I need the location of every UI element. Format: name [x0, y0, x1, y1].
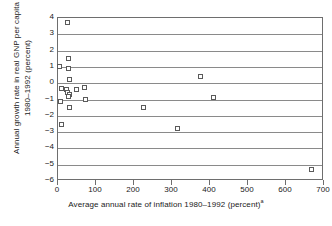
y-axis-tick-label: −3 — [34, 127, 54, 135]
y-axis-tick-label: −6 — [34, 176, 54, 184]
x-axis-tick-label: 500 — [232, 186, 262, 194]
data-point-marker — [211, 95, 216, 100]
x-axis-title-text: Average annual rate of inflation 1980–19… — [68, 200, 260, 209]
y-axis-tick-label: 1 — [34, 62, 54, 70]
x-axis-tick-label: 700 — [308, 186, 332, 194]
x-axis-tick-label: 200 — [118, 186, 148, 194]
data-point-marker — [67, 105, 72, 110]
gridline — [58, 51, 322, 52]
y-axis-tick-label: 3 — [34, 29, 54, 37]
data-point-marker — [59, 122, 64, 127]
data-point-marker — [59, 86, 64, 91]
x-axis-tick-label: 600 — [270, 186, 300, 194]
data-point-marker — [198, 74, 203, 79]
x-axis-title-footnote: a — [261, 198, 264, 204]
data-point-marker — [66, 66, 71, 71]
data-point-marker — [67, 77, 72, 82]
data-point-marker — [57, 64, 62, 69]
y-axis-tick-label: 2 — [34, 46, 54, 54]
gridline — [58, 34, 322, 35]
data-point-marker — [309, 167, 314, 172]
data-point-marker — [66, 56, 71, 61]
gridline — [58, 165, 322, 166]
data-point-marker — [82, 85, 87, 90]
x-axis-tick-label: 0 — [42, 186, 72, 194]
data-point-marker — [66, 94, 71, 99]
x-axis-title: Average annual rate of inflation 1980–19… — [0, 200, 332, 209]
gridline — [58, 148, 322, 149]
y-axis-tick-label: 4 — [34, 13, 54, 21]
plot-area — [57, 17, 323, 180]
y-axis-tick-label: −1 — [34, 95, 54, 103]
x-axis-tick-label: 100 — [80, 186, 110, 194]
x-axis-tick-label: 400 — [194, 186, 224, 194]
data-point-marker — [58, 99, 63, 104]
gridline — [58, 83, 322, 84]
data-point-marker — [65, 20, 70, 25]
gridline — [58, 100, 322, 101]
y-axis-tick-label: −2 — [34, 111, 54, 119]
scatter-chart-figure: Annual growth rate in real GNP per capit… — [0, 0, 332, 226]
data-point-marker — [74, 87, 79, 92]
gridline — [58, 67, 322, 68]
y-axis-tick-label: 0 — [34, 78, 54, 86]
data-point-marker — [141, 105, 146, 110]
y-axis-tick-label: −4 — [34, 143, 54, 151]
gridline — [58, 132, 322, 133]
gridline — [58, 116, 322, 117]
x-axis-tick-label: 300 — [156, 186, 186, 194]
y-axis-title-line-1: Annual growth rate in real GNP per capit… — [12, 0, 23, 163]
y-axis-title-line-2: 1980–1992 (percent) — [23, 0, 34, 163]
data-point-marker — [83, 97, 88, 102]
data-point-marker — [175, 126, 180, 131]
y-axis-tick-label: −5 — [34, 160, 54, 168]
